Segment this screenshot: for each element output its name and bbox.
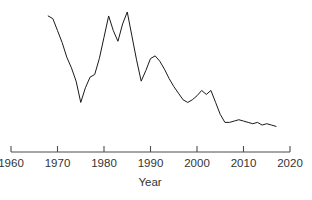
x-axis: 1960197019801990200020102020	[0, 146, 303, 169]
x-axis-title: Year	[138, 176, 161, 188]
x-tick-label-2010: 2010	[231, 157, 257, 169]
x-axis-ticks	[11, 146, 290, 152]
x-tick-label-2000: 2000	[184, 157, 210, 169]
x-tick-label-1960: 1960	[0, 157, 24, 169]
x-axis-tick-labels: 1960197019801990200020102020	[0, 157, 303, 169]
chart-container: 1960197019801990200020102020 Year	[0, 0, 312, 200]
x-tick-label-1970: 1970	[45, 157, 71, 169]
data-series-group	[48, 12, 276, 126]
x-tick-label-1990: 1990	[138, 157, 164, 169]
x-tick-label-1980: 1980	[91, 157, 117, 169]
line-chart: 1960197019801990200020102020 Year	[0, 0, 312, 200]
x-tick-label-2020: 2020	[277, 157, 303, 169]
series-line-1	[48, 12, 276, 126]
